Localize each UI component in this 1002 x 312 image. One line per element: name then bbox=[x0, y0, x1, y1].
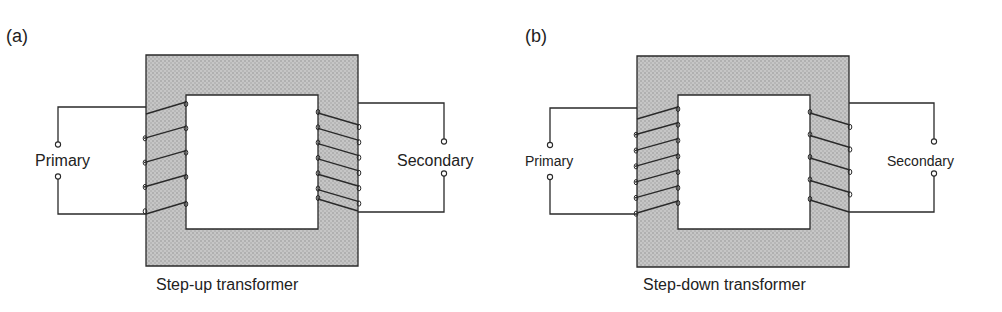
secondary-label-b: Secondary bbox=[887, 153, 954, 169]
terminal-icon bbox=[55, 142, 60, 147]
terminal-icon bbox=[547, 142, 552, 147]
terminal-icon bbox=[547, 174, 552, 179]
caption-a: Step-up transformer bbox=[156, 276, 299, 293]
primary-label-a: Primary bbox=[35, 152, 90, 169]
terminal-icon bbox=[441, 139, 446, 144]
panel-a-step-up: (a) Primary Secondary Step-up transforme… bbox=[6, 26, 474, 293]
panel-b-step-down: (b) Primary Secondary Step-down transfor… bbox=[525, 26, 954, 293]
terminal-icon bbox=[931, 171, 936, 176]
terminal-icon bbox=[441, 171, 446, 176]
secondary-label-a: Secondary bbox=[397, 152, 474, 169]
core-a bbox=[146, 55, 358, 266]
transformer-diagram: (a) Primary Secondary Step-up transforme… bbox=[0, 0, 1002, 312]
caption-b: Step-down transformer bbox=[643, 276, 806, 293]
panel-label-a: (a) bbox=[6, 26, 28, 46]
terminal-icon bbox=[931, 139, 936, 144]
terminal-icon bbox=[55, 174, 60, 179]
primary-label-b: Primary bbox=[525, 153, 573, 169]
core-b bbox=[637, 56, 849, 267]
panel-label-b: (b) bbox=[525, 26, 547, 46]
